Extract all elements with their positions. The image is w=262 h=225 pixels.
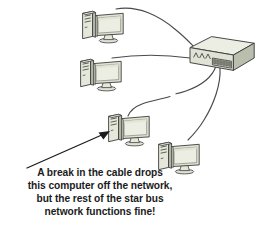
caption-line-2: this computer off the network, (28, 180, 173, 191)
caption-line-1: A break in the cable drops (37, 167, 163, 178)
caption-line-4: network functions fine! (45, 206, 156, 217)
pointer-arrow-to-broken-computer (27, 131, 110, 168)
cable-to-computer-1 (116, 8, 197, 50)
caption-block: A break in the cable drops this computer… (28, 167, 173, 217)
cable-to-computer-3-computer-segment (128, 97, 170, 117)
network-switch[interactable] (190, 37, 254, 71)
network-diagram: A break in the cable drops this computer… (0, 0, 262, 225)
computer-2[interactable] (81, 59, 122, 91)
computer-4[interactable] (159, 142, 200, 174)
caption-line-3: but the rest of the star bus (36, 193, 163, 204)
cable-to-computer-3-switch-segment (176, 66, 216, 94)
computer-1[interactable] (83, 11, 124, 43)
computer-3[interactable] (109, 114, 150, 146)
diagram-canvas: A break in the cable drops this computer… (0, 0, 262, 225)
cable-to-computer-4 (188, 68, 220, 140)
